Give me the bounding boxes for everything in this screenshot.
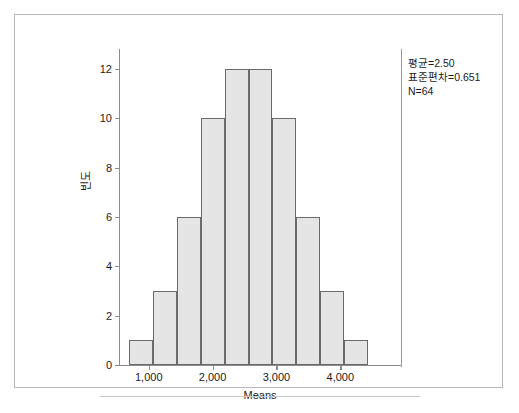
stats-annotation-box: 평균=2.50 표준편차=0.651 N=64	[408, 56, 480, 98]
y-tick-mark	[115, 118, 120, 119]
histogram-bar	[129, 340, 153, 365]
histogram-bar	[249, 69, 273, 365]
histogram-bar	[344, 340, 368, 365]
x-tick-mark	[213, 365, 214, 370]
y-tick-mark	[115, 316, 120, 317]
y-tick-label: 2	[106, 310, 112, 321]
figure-outer-frame: 024681012 1,0002,0003,0004,000 Means 빈도 …	[14, 14, 503, 388]
plot-right-rule	[401, 49, 402, 367]
histogram-bar	[272, 118, 296, 365]
y-tick-mark	[115, 69, 120, 70]
histogram-bar	[225, 69, 249, 365]
histogram-bar	[296, 217, 320, 365]
x-tick-label: 1,000	[135, 372, 163, 383]
stat-stdev: 표준편차=0.651	[408, 70, 480, 84]
histogram-bar	[320, 291, 344, 365]
caption-divider	[100, 396, 420, 397]
histogram-bar	[201, 118, 225, 365]
stat-count: N=64	[408, 84, 480, 98]
y-tick-label: 10	[100, 113, 112, 124]
histogram-screenshot: 024681012 1,0002,0003,0004,000 Means 빈도 …	[0, 0, 519, 413]
x-tick-mark	[340, 365, 341, 370]
bars-container	[120, 49, 401, 365]
y-tick-mark	[115, 365, 120, 366]
x-tick-mark	[276, 365, 277, 370]
stat-mean: 평균=2.50	[408, 56, 480, 70]
y-axis-title: 빈도	[77, 171, 93, 191]
histogram-bar	[177, 217, 201, 365]
x-tick-label: 4,000	[327, 372, 355, 383]
y-tick-label: 4	[106, 261, 112, 272]
y-tick-label: 6	[106, 211, 112, 222]
x-tick-mark	[149, 365, 150, 370]
y-tick-mark	[115, 168, 120, 169]
x-tick-label: 3,000	[263, 372, 291, 383]
histogram-bar	[153, 291, 177, 365]
y-tick-label: 0	[106, 360, 112, 371]
y-tick-label: 8	[106, 162, 112, 173]
x-tick-label: 2,000	[199, 372, 227, 383]
figure-caption	[0, 400, 519, 413]
y-tick-label: 12	[100, 63, 112, 74]
y-tick-mark	[115, 217, 120, 218]
plot-area: 024681012 1,0002,0003,0004,000	[119, 49, 401, 366]
y-tick-mark	[115, 266, 120, 267]
